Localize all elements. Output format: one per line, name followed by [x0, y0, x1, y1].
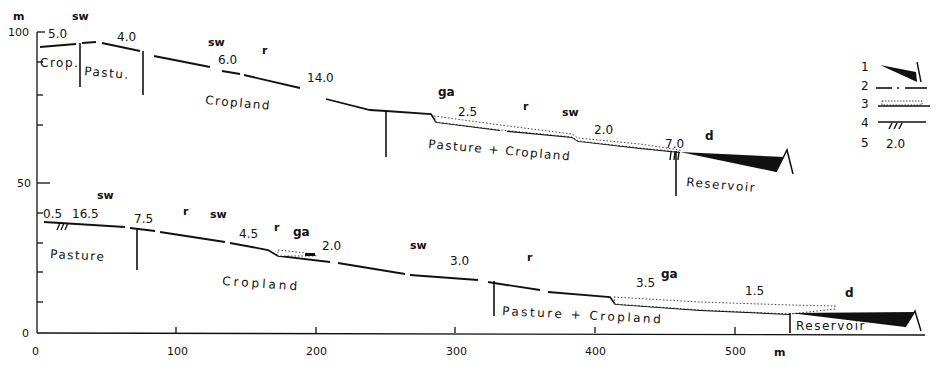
x-tick-0: 0 [32, 345, 39, 358]
upper-slope-7: 7.0 [665, 137, 684, 151]
upper-slope-5: 2.5 [458, 105, 477, 119]
upper-process-d: d [705, 129, 714, 143]
slope-profile-diagram: m 100 50 0 0 100 200 300 400 500 m [0, 0, 946, 371]
lower-landuse-pasture-cropland: Pasture + Cropland [502, 304, 664, 326]
lower-process-ga-2: ga [661, 267, 678, 281]
upper-slope-4: 14.0 [307, 71, 334, 85]
x-tick-300: 300 [446, 345, 467, 358]
legend-num-3: 3 [861, 97, 869, 111]
lower-landuse-cropland: Cropland [222, 274, 301, 293]
upper-profile-line [40, 42, 680, 152]
lower-landuse-reservoir: Reservoir [796, 319, 866, 333]
upper-slope-2: 4.0 [117, 30, 136, 44]
legend-num-5: 5 [861, 136, 869, 150]
upper-slope-3: 6.0 [218, 53, 237, 67]
lower-process-r-2: r [274, 221, 280, 234]
x-tick-400: 400 [585, 345, 606, 358]
legend-symbol-dam [917, 62, 921, 82]
lower-deposit-dark [305, 253, 315, 256]
lower-process-r-1: r [183, 205, 189, 218]
legend-slope-value: 2.0 [886, 137, 905, 151]
x-axis-unit: m [774, 346, 785, 359]
legend-symbol-hatched [878, 122, 926, 129]
lower-profile-line [44, 222, 790, 314]
upper-slope-1: 5.0 [48, 27, 67, 41]
upper-process-r-2: r [523, 100, 529, 113]
legend-symbol-reservoir-wedge [880, 65, 917, 82]
lower-process-ga-1: ga [293, 225, 310, 239]
upper-landuse-pasture-cropland: Pasture + Cropland [428, 137, 572, 163]
legend: 1 2 3 4 5 2.0 [861, 60, 930, 151]
x-tick-100: 100 [167, 345, 188, 358]
lower-slope-2: 16.5 [72, 207, 99, 221]
lower-slope-4: 4.5 [239, 227, 258, 241]
legend-num-4: 4 [861, 116, 869, 130]
y-axis [37, 32, 50, 333]
lower-process-sw-3: sw [410, 239, 427, 252]
legend-num-1: 1 [861, 60, 869, 74]
upper-landuse-cropland: Cropland [205, 93, 272, 113]
y-tick-100: 100 [8, 26, 29, 39]
lower-slope-6: 3.0 [450, 254, 469, 268]
legend-symbol-dotted-band [882, 101, 922, 105]
lower-process-sw-2: sw [210, 208, 227, 221]
lower-slope-8: 1.5 [745, 284, 764, 298]
lower-slope-1: 0.5 [43, 207, 62, 221]
upper-landuse-pastu: Pastu. [84, 64, 130, 82]
lower-slope-7: 3.5 [636, 276, 655, 290]
upper-process-ga: ga [438, 85, 455, 99]
lower-slope-3: 7.5 [134, 212, 153, 226]
upper-hatch [670, 152, 679, 160]
y-tick-0: 0 [22, 327, 29, 340]
lower-process-sw-1: sw [97, 189, 114, 202]
lower-landuse-pasture: Pasture [50, 247, 106, 264]
x-tick-500: 500 [725, 345, 746, 358]
upper-reservoir-deposit [680, 152, 784, 172]
x-tick-200: 200 [306, 345, 327, 358]
lower-process-r-3: r [527, 251, 533, 264]
lower-slope-5: 2.0 [322, 239, 341, 253]
upper-process-sw-1: sw [72, 10, 89, 23]
upper-landuse-crop: Crop. [40, 56, 79, 70]
upper-process-sw-3: sw [562, 106, 579, 119]
upper-landuse-reservoir: Reservoir [686, 175, 757, 195]
y-axis-unit: m [13, 10, 24, 23]
lower-process-d: d [845, 286, 854, 300]
y-tick-50: 50 [17, 177, 31, 190]
upper-landuse-boundaries [80, 43, 676, 196]
upper-slope-6: 2.0 [594, 123, 613, 137]
x-axis [37, 327, 925, 335]
upper-process-sw-2: sw [208, 36, 225, 49]
legend-num-2: 2 [861, 79, 869, 93]
upper-process-r-1: r [262, 44, 268, 57]
